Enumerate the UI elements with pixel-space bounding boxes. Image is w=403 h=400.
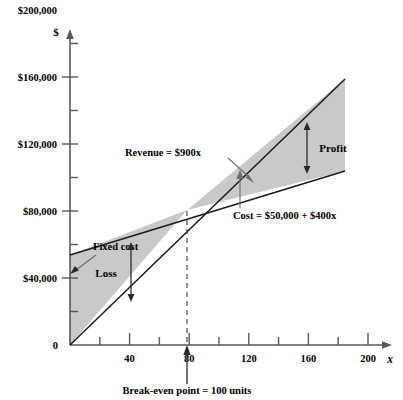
- x-tick-label-120: 120: [241, 353, 257, 364]
- y-axis-arrowhead: [66, 29, 74, 39]
- profit-region-label: Profit: [319, 142, 347, 154]
- break-even-caption: Break-even point = 100 units: [123, 385, 252, 396]
- x-axis-arrowhead: [382, 341, 392, 349]
- y-tick-label-80000: $80,000: [23, 206, 57, 217]
- y-tick-label-40000: $40,000: [23, 273, 57, 284]
- break-even-caption-arrowhead: [183, 345, 190, 355]
- x-tick-label-160: 160: [301, 353, 317, 364]
- loss-region-fill: [70, 210, 187, 345]
- cost-equation-label: Cost = $50,000 + $400x: [233, 210, 337, 221]
- break-even-chart: $ x $200,000 $160,000 $120,000 $80,000 $…: [0, 0, 403, 400]
- loss-measure-arrowhead-bottom: [128, 294, 135, 302]
- y-axis-title: $: [53, 26, 59, 38]
- y-tick-label-120000: $120,000: [18, 139, 57, 150]
- revenue-equation-label: Revenue = $900x: [125, 147, 202, 158]
- loss-region-label: Loss: [95, 267, 117, 279]
- chart-canvas: $ x $200,000 $160,000 $120,000 $80,000 $…: [0, 0, 403, 400]
- x-tick-label-200: 200: [360, 353, 376, 364]
- y-tick-label-160000: $160,000: [18, 72, 57, 83]
- x-tick-label-40: 40: [124, 353, 135, 364]
- y-tick-label-200000: $200,000: [18, 5, 57, 16]
- x-axis-title: x: [386, 353, 393, 365]
- origin-label: 0: [53, 340, 58, 351]
